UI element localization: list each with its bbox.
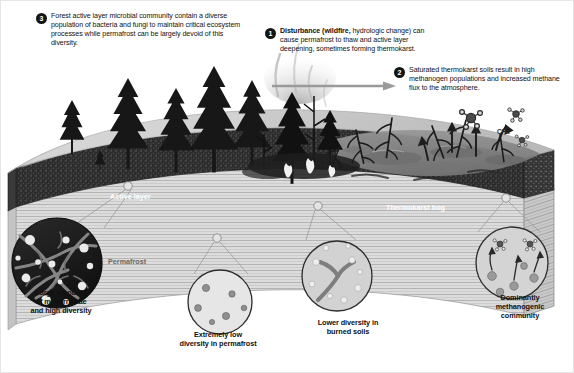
callout-1-badge: 1 [265,28,276,39]
callout-3: 3 Forest active layer microbial communit… [36,12,241,48]
caption-methanogenic-line1: Dominantly [470,293,570,302]
callout-2-body: Saturated thermokarst soils result in hi… [409,66,560,92]
caption-mycorrhizae-line1: Large amounts [6,288,116,297]
caption-mycorrhizae-line3: and high diversity [6,306,116,315]
caption-burned-soils-line2: burned soils [292,327,404,336]
label-thermokarst-bog: Thermokarst bog [386,204,445,212]
caption-methanogenic: Dominantly methanogenic community [470,293,570,321]
caption-methanogenic-line3: community [470,311,570,320]
callout-1-lead: Disturbance (wildfire, [280,27,351,35]
caption-permafrost-diversity-line2: diversity in permafrost [148,339,288,348]
callout-2-badge: 2 [394,67,405,78]
callout-3-body: Forest active layer microbial community … [51,12,240,47]
label-permafrost: Permafrost [108,258,146,266]
caption-burned-soils: Lower diversity in burned soils [292,318,404,336]
callout-3-badge: 3 [36,13,47,24]
diagram-canvas: 3 Forest active layer microbial communit… [0,0,574,373]
callout-3-text: Forest active layer microbial community … [51,12,241,48]
inset-permafrost-diversity [188,270,252,334]
inset-methanogenic [476,227,548,299]
inset-burned-soils [302,241,372,311]
label-methane-formula: CH₄ [497,128,510,135]
caption-mycorrhizae: Large amounts of mycorrhizae and high di… [6,288,116,316]
callout-2: 2 Saturated thermokarst soils result in … [394,66,569,93]
callout-1: 1 Disturbance (wildfire, hydrologic chan… [265,27,425,54]
label-active-layer: Active layer [110,193,151,201]
caption-permafrost-diversity-line1: Extremely low [148,330,288,339]
callout-2-text: Saturated thermokarst soils result in hi… [409,66,569,93]
caption-permafrost-diversity: Extremely low diversity in permafrost [148,330,288,348]
callout-1-text: Disturbance (wildfire, hydrologic change… [280,27,425,54]
caption-methanogenic-line2: methanogenic [470,302,570,311]
caption-mycorrhizae-line2: of mycorrhizae [6,297,116,306]
caption-burned-soils-line1: Lower diversity in [292,318,404,327]
